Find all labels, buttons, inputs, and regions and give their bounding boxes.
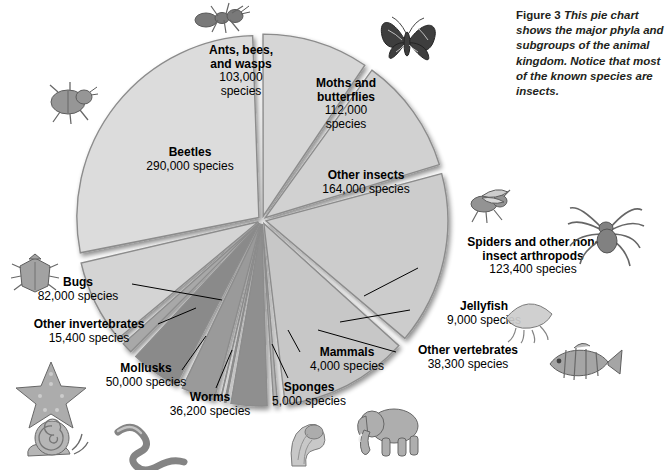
slice-label-ants-value: 103,000: [188, 71, 294, 85]
slice-label-moths-value: 112,000: [300, 104, 392, 118]
shield-bug-illustration: [8, 252, 62, 296]
slice-label-mollusks-name: Mollusks: [96, 362, 196, 376]
slice-label-other-insects: Other insects 164,000 species: [300, 169, 432, 196]
slice-label-worms-value: 36,200 species: [150, 405, 270, 419]
slice-label-worms: Worms 36,200 species: [150, 391, 270, 418]
slice-label-mollusks-value: 50,000 species: [96, 376, 196, 390]
slice-label-mammals-value: 4,000 species: [302, 360, 392, 374]
slice-label-moths-name: Moths and: [300, 77, 392, 91]
slice-label-other-invertebrates: Other invertebrates 15,400 species: [4, 318, 174, 345]
slice-label-ants-name: Ants, bees,: [188, 44, 294, 58]
slice-label-other-invertebrates-value: 15,400 species: [4, 332, 174, 346]
slice-label-other-vertebrates: Other vertebrates 38,300 species: [400, 344, 536, 371]
sponge-illustration: [278, 418, 334, 470]
slice-label-moths-unit: species: [300, 118, 392, 132]
slice-label-other-insects-value: 164,000 species: [300, 183, 432, 197]
slice-label-other-insects-name: Other insects: [300, 169, 432, 183]
slice-label-moths-name2: butterflies: [300, 91, 392, 105]
slice-label-sponges-value: 5,000 species: [258, 395, 360, 409]
fish-illustration: [540, 340, 624, 388]
slice-label-beetles-value: 290,000 species: [116, 160, 264, 174]
slice-label-ants-bees-wasps: Ants, bees, and wasps 103,000 species: [188, 44, 294, 98]
slice-label-mammals-name: Mammals: [302, 346, 392, 360]
slice-label-mammals: Mammals 4,000 species: [302, 346, 392, 373]
figure-caption: Figure 3 This pie chart shows the major …: [516, 8, 664, 99]
spider-illustration: [566, 196, 646, 270]
slice-label-beetles-name: Beetles: [116, 146, 264, 160]
beetle-illustration: [42, 80, 98, 126]
figure-label: Figure 3: [516, 9, 561, 21]
slice-label-beetles: Beetles 290,000 species: [116, 146, 264, 173]
slice-label-sponges-name: Sponges: [258, 381, 360, 395]
slice-label-moths-butterflies: Moths and butterflies 112,000 species: [300, 77, 392, 131]
slice-label-ants-name2: and wasps: [188, 58, 294, 72]
slice-label-other-vertebrates-name: Other vertebrates: [400, 344, 536, 358]
slice-label-other-invertebrates-name: Other invertebrates: [4, 318, 174, 332]
fly-illustration: [462, 186, 518, 224]
starfish-illustration: [14, 358, 88, 430]
slice-label-other-vertebrates-value: 38,300 species: [400, 358, 536, 372]
slice-label-worms-name: Worms: [150, 391, 270, 405]
figure-container: Ants, bees, and wasps 103,000 species Mo…: [0, 0, 669, 471]
figure-caption-text: This pie chart shows the major phyla and…: [516, 9, 664, 97]
jellyfish-illustration: [498, 294, 560, 344]
butterfly-illustration: [372, 6, 444, 78]
slice-label-ants-unit: species: [188, 85, 294, 99]
slice-label-mollusks: Mollusks 50,000 species: [96, 362, 196, 389]
slice-label-sponges: Sponges 5,000 species: [258, 381, 360, 408]
ant-illustration: [186, 0, 260, 34]
elephant-illustration: [356, 398, 432, 460]
worm-illustration: [110, 418, 194, 470]
